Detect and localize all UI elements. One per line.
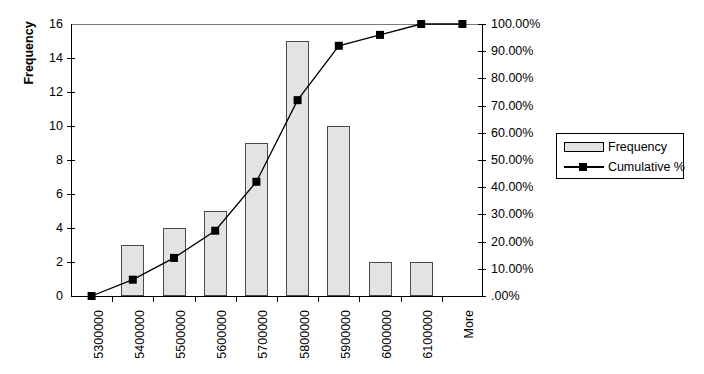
x-tick-label: 5700000 [256,310,270,374]
y-tick-label-right: 90.00% [491,45,571,57]
legend-item-cumulative: Cumulative % [557,156,685,177]
cumulative-line-path [92,24,463,296]
y-tick-label-right: 10.00% [491,263,571,275]
x-tick-label: 5300000 [92,310,106,374]
y-tick-label-left: 0 [7,290,63,302]
y-tick-label-left: 6 [7,188,63,200]
x-tick-label: 6000000 [380,310,394,374]
cumulative-marker [211,227,219,235]
x-tick-label: 6100000 [421,310,435,374]
y-tick-label-left: 14 [7,52,63,64]
y-tick-label-left: 8 [7,154,63,166]
line-square-swatch-icon [564,161,604,172]
cumulative-marker [417,20,425,28]
y-tick-label-right: .00% [491,290,571,302]
legend-label-cumulative: Cumulative % [608,160,685,174]
x-tick-label: More [462,310,476,374]
x-tick-label: 5400000 [133,310,147,374]
y-tick-label-right: 80.00% [491,72,571,84]
x-tick-label: 5800000 [298,310,312,374]
cumulative-percent-line [71,24,483,297]
cumulative-marker [458,20,466,28]
y-tick-label-right: 30.00% [491,208,571,220]
y-tick-label-left: 16 [7,18,63,30]
cumulative-marker [376,31,384,39]
x-tick-label: 5600000 [215,310,229,374]
cumulative-marker [294,96,302,104]
y-tick-label-left: 10 [7,120,63,132]
legend: Frequency Cumulative % [556,133,684,179]
y-tick-label-left: 4 [7,222,63,234]
cumulative-marker [170,254,178,262]
plot-area [71,24,483,296]
y-tick-label-right: 70.00% [491,100,571,112]
cumulative-marker [252,178,260,186]
legend-item-frequency: Frequency [557,136,685,157]
y-tick-label-left: 12 [7,86,63,98]
y-tick-label-right: 20.00% [491,236,571,248]
x-tick-label: 5500000 [174,310,188,374]
y-tick-label-left: 2 [7,256,63,268]
legend-square-marker-icon [579,163,587,171]
legend-label-frequency: Frequency [608,140,667,154]
cumulative-marker [335,42,343,50]
cumulative-marker [88,292,96,300]
histogram-pareto-chart: Frequency 0246810121416 .00%10.00%20.00%… [0,0,704,374]
x-tick-label: 5900000 [339,310,353,374]
y-tick-label-right: 40.00% [491,181,571,193]
y-tick-label-right: 100.00% [491,18,571,30]
bar-swatch-icon [564,142,604,152]
cumulative-marker [129,276,137,284]
